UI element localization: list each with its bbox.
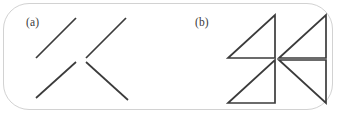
panel-b: (b) <box>180 0 335 119</box>
triangle-bottom-right <box>279 60 326 103</box>
triangle-top-right <box>279 15 326 58</box>
segment-bottom-left <box>36 62 76 98</box>
segment-bottom-right <box>86 62 128 100</box>
panel-a: (a) <box>10 0 180 119</box>
panel-a-stimulus <box>10 0 180 119</box>
panel-b-stimulus <box>180 0 335 119</box>
figure-root: (a) (b) <box>0 0 342 119</box>
triangle-bottom-left <box>228 60 275 103</box>
segment-top-right <box>86 18 126 58</box>
segment-top-left <box>36 18 76 58</box>
triangle-top-left <box>228 15 275 58</box>
